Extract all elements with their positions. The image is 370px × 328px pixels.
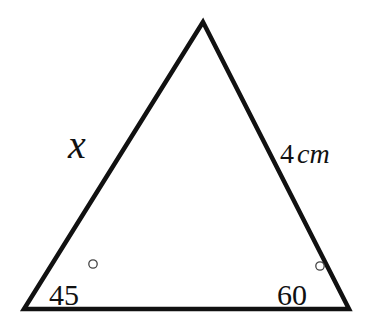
side-label-x: x (67, 122, 86, 167)
angle-label-45: 45 (49, 278, 79, 311)
side-label-4cm: 4cm (280, 138, 330, 169)
triangle-diagram: x 4cm 45 60 (0, 0, 370, 328)
side-length-number: 4 (280, 138, 294, 169)
side-length-unit: cm (297, 138, 330, 169)
angle-label-60: 60 (277, 278, 307, 311)
degree-icon (89, 260, 97, 268)
degree-icon (316, 262, 324, 270)
